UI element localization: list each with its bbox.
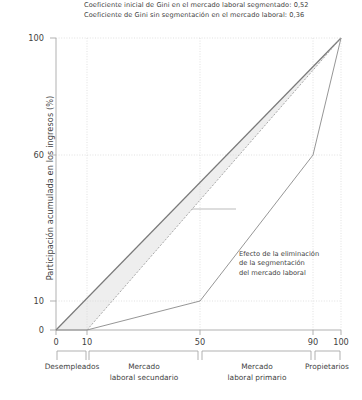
- group-label-propietarios: Propietarios: [292, 362, 362, 373]
- group-label-mercado-laboral-secundario: Mercado laboral secundario: [84, 362, 204, 383]
- gini-lorenz-figure: Coeficiente inicial de Gini en el mercad…: [0, 0, 362, 400]
- group-bracket-primario: [202, 351, 311, 360]
- annotation-line-3: del mercado laboral: [239, 269, 359, 278]
- annotation-efecto-eliminacion: Efecto de la eliminación de la segmentac…: [239, 250, 359, 278]
- lorenz-curve-plot: [0, 0, 362, 400]
- equality-line: [56, 38, 341, 330]
- group-bracket-secundario: [89, 351, 198, 360]
- group-bracket-propietarios: [315, 351, 340, 360]
- annotation-line-2: de la segmentación: [239, 259, 359, 268]
- group-bracket-desempleados: [57, 351, 86, 360]
- annotation-line-1: Efecto de la eliminación: [239, 250, 359, 259]
